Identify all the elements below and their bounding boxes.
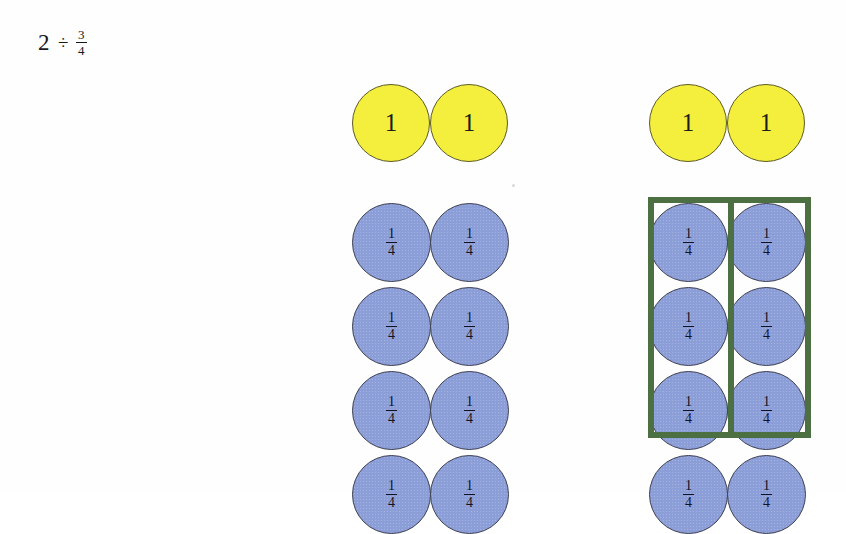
fraction-label: 14 xyxy=(761,227,772,259)
fraction-denominator: 4 xyxy=(387,495,396,510)
fraction-label: 14 xyxy=(464,479,475,511)
fraction-circle: 14 xyxy=(727,371,806,450)
fraction-label: 14 xyxy=(464,311,475,343)
fraction-circle: 14 xyxy=(649,455,728,534)
fraction-denominator: 4 xyxy=(684,495,693,510)
fraction-numerator: 1 xyxy=(387,395,396,410)
fraction-numerator: 1 xyxy=(387,227,396,242)
fraction-label: 14 xyxy=(464,227,475,259)
fraction-numerator: 1 xyxy=(684,395,693,410)
whole-circle: 1 xyxy=(727,84,805,162)
fraction-numerator: 1 xyxy=(762,227,771,242)
fraction-denominator: 4 xyxy=(762,243,771,258)
fraction-circle: 14 xyxy=(430,371,509,450)
fraction-circle: 14 xyxy=(430,203,509,282)
fraction-denominator: 4 xyxy=(684,243,693,258)
fraction-label: 14 xyxy=(386,227,397,259)
fraction-denominator: 4 xyxy=(387,243,396,258)
fraction-numerator: 1 xyxy=(387,479,396,494)
fraction-circle: 14 xyxy=(352,203,431,282)
fraction-circle: 14 xyxy=(649,371,728,450)
fraction-numerator: 1 xyxy=(387,311,396,326)
fraction-label: 14 xyxy=(761,311,772,343)
fraction-circle: 14 xyxy=(727,287,806,366)
fraction-label: 14 xyxy=(386,395,397,427)
whole-circle: 1 xyxy=(352,84,430,162)
divisor-numerator: 3 xyxy=(77,28,86,42)
fraction-label: 14 xyxy=(464,395,475,427)
fraction-circle: 14 xyxy=(352,287,431,366)
fraction-circle: 14 xyxy=(352,371,431,450)
fraction-denominator: 4 xyxy=(762,327,771,342)
fraction-denominator: 4 xyxy=(465,327,474,342)
fraction-label: 14 xyxy=(683,395,694,427)
divisor-fraction: 3 4 xyxy=(76,28,87,57)
fraction-numerator: 1 xyxy=(465,479,474,494)
math-expression: 2 ÷ 3 4 xyxy=(38,28,87,57)
fraction-numerator: 1 xyxy=(684,311,693,326)
fraction-circle: 14 xyxy=(430,455,509,534)
fraction-numerator: 1 xyxy=(684,479,693,494)
fraction-denominator: 4 xyxy=(387,411,396,426)
whole-circle-label: 1 xyxy=(682,109,695,137)
fraction-circle: 14 xyxy=(352,455,431,534)
fraction-numerator: 1 xyxy=(684,227,693,242)
fraction-label: 14 xyxy=(761,479,772,511)
fraction-numerator: 1 xyxy=(762,479,771,494)
whole-circle-label: 1 xyxy=(385,109,398,137)
fraction-numerator: 1 xyxy=(465,227,474,242)
fraction-label: 14 xyxy=(386,311,397,343)
fraction-denominator: 4 xyxy=(684,411,693,426)
fraction-circle: 14 xyxy=(430,287,509,366)
fraction-numerator: 1 xyxy=(465,311,474,326)
division-operator-icon: ÷ xyxy=(58,33,69,52)
fraction-label: 14 xyxy=(386,479,397,511)
divisor-denominator: 4 xyxy=(77,43,86,57)
scan-speck xyxy=(512,184,515,187)
fraction-denominator: 4 xyxy=(465,495,474,510)
fraction-label: 14 xyxy=(683,311,694,343)
fraction-denominator: 4 xyxy=(762,495,771,510)
fraction-circle: 14 xyxy=(649,203,728,282)
fraction-label: 14 xyxy=(683,227,694,259)
fraction-numerator: 1 xyxy=(762,311,771,326)
fraction-denominator: 4 xyxy=(465,411,474,426)
whole-circle-label: 1 xyxy=(760,109,773,137)
fraction-denominator: 4 xyxy=(465,243,474,258)
dividend-value: 2 xyxy=(38,31,50,54)
fraction-circle: 14 xyxy=(649,287,728,366)
fraction-denominator: 4 xyxy=(762,411,771,426)
fraction-circle: 14 xyxy=(727,455,806,534)
fraction-numerator: 1 xyxy=(762,395,771,410)
whole-circle: 1 xyxy=(649,84,727,162)
fraction-label: 14 xyxy=(683,479,694,511)
fraction-label: 14 xyxy=(761,395,772,427)
fraction-denominator: 4 xyxy=(387,327,396,342)
whole-circle: 1 xyxy=(430,84,508,162)
fraction-circle: 14 xyxy=(727,203,806,282)
fraction-numerator: 1 xyxy=(465,395,474,410)
whole-circle-label: 1 xyxy=(463,109,476,137)
fraction-denominator: 4 xyxy=(684,327,693,342)
